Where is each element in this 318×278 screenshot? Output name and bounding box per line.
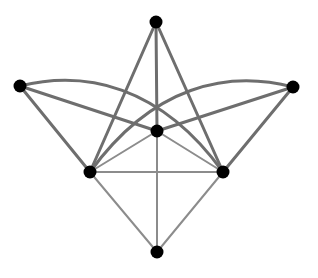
node-bottom [151, 246, 164, 259]
edge-top-center [156, 22, 157, 131]
node-lower-left [84, 166, 97, 179]
graph-diagram [0, 0, 318, 278]
node-center [151, 125, 164, 138]
node-top [150, 16, 163, 29]
node-lower-right [217, 166, 230, 179]
diagram-background [0, 0, 318, 278]
node-right [287, 81, 300, 94]
node-left [14, 80, 27, 93]
